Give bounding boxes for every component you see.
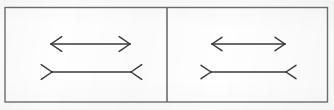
left-bottom-shaft — [41, 65, 142, 80]
right-bottom-shaft — [201, 65, 296, 78]
left-bottom-shaft-right-fin-lower — [131, 72, 142, 79]
muller-lyer-figure — [0, 0, 334, 110]
right-bottom-shaft-left-fin-lower — [201, 72, 211, 79]
left-top-shaft-right-fin-lower — [119, 44, 130, 51]
right-bottom-shaft-right-fin-upper — [286, 65, 296, 72]
figure-canvas — [0, 0, 334, 110]
left-top-shaft-right-fin-upper — [119, 37, 130, 44]
right-top-shaft-left-fin-upper — [212, 37, 222, 44]
left-bottom-shaft-left-fin-lower — [41, 72, 52, 79]
right-bottom-shaft-right-fin-lower — [286, 72, 296, 79]
panel-right — [201, 37, 296, 78]
panel-left — [41, 37, 142, 80]
left-bottom-shaft-left-fin-upper — [41, 65, 52, 72]
right-top-shaft-right-fin-upper — [275, 37, 285, 44]
right-top-shaft-left-fin-lower — [212, 44, 222, 51]
right-top-shaft-right-fin-lower — [275, 44, 285, 51]
right-bottom-shaft-left-fin-upper — [201, 65, 211, 72]
right-top-shaft — [212, 37, 285, 50]
left-top-shaft-left-fin-upper — [51, 37, 62, 44]
left-top-shaft — [51, 37, 130, 52]
left-top-shaft-left-fin-lower — [51, 44, 62, 51]
left-bottom-shaft-right-fin-upper — [131, 65, 142, 72]
